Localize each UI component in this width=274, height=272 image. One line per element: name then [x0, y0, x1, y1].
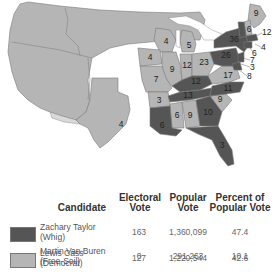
- svg-text:6: 6: [247, 24, 252, 34]
- svg-text:23: 23: [199, 57, 209, 67]
- svg-text:6: 6: [160, 120, 165, 130]
- lake-michigan: [176, 30, 180, 48]
- svg-text:9: 9: [188, 110, 193, 120]
- header-electoral-vote: ElectoralVote: [114, 193, 166, 213]
- header-candidate: Candidate: [40, 203, 124, 213]
- svg-text:3: 3: [157, 95, 162, 105]
- svg-text:9: 9: [170, 64, 175, 74]
- popular-vote: 291,263: [156, 251, 220, 261]
- svg-text:10: 10: [203, 107, 213, 117]
- svg-text:9: 9: [218, 94, 223, 104]
- svg-text:9: 9: [254, 8, 259, 18]
- svg-text:6: 6: [175, 110, 180, 120]
- svg-text:12: 12: [262, 27, 272, 37]
- svg-text:8: 8: [247, 71, 252, 81]
- svg-text:13: 13: [183, 90, 193, 100]
- state-new-jersey: [238, 52, 244, 62]
- header-percent-popular-vote: Percent ofPopular Vote: [208, 193, 272, 213]
- svg-text:26: 26: [221, 50, 231, 60]
- percent-popular: 10.1: [218, 251, 262, 261]
- candidate-name: Martin Van Buren(Free-Soil): [40, 247, 106, 266]
- svg-text:3: 3: [220, 140, 225, 150]
- state-florida: [186, 126, 234, 166]
- election-map: 4 4 4 5 9 12 23 7 12 17 13 11 3 6 9 10 9…: [0, 0, 274, 185]
- electoral-vote: 0: [118, 251, 160, 261]
- svg-text:4: 4: [261, 42, 266, 52]
- table-row: Martin Van Buren(Free-Soil) 0 291,263 10…: [0, 247, 274, 272]
- svg-text:12: 12: [191, 76, 201, 86]
- svg-text:17: 17: [223, 70, 233, 80]
- svg-text:4: 4: [164, 36, 169, 46]
- popular-vote: 1,360,099: [156, 227, 220, 237]
- svg-text:5: 5: [187, 40, 192, 50]
- svg-text:4: 4: [119, 119, 124, 129]
- svg-text:36: 36: [229, 34, 239, 44]
- percent-popular: 47.4: [218, 227, 262, 237]
- candidate-name: Zachary Taylor(Whig): [40, 223, 96, 242]
- electoral-vote: 163: [118, 227, 160, 237]
- svg-text:11: 11: [224, 83, 233, 93]
- svg-text:12: 12: [182, 60, 192, 70]
- svg-text:4: 4: [148, 52, 153, 62]
- whig-swatch: [10, 227, 36, 242]
- svg-text:7: 7: [154, 74, 159, 84]
- state-connecticut: [244, 42, 252, 48]
